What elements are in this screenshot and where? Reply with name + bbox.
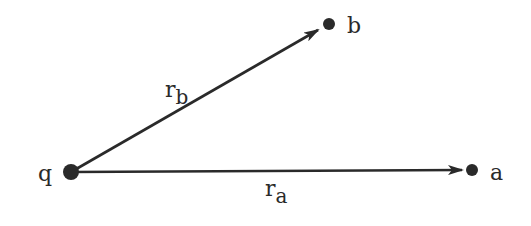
label-r-a: ra	[265, 176, 288, 208]
label-r-a-main: r	[265, 176, 276, 201]
label-r-b-subscript: b	[176, 85, 189, 109]
label-r-b-main: r	[165, 77, 176, 102]
label-r-b: rb	[165, 77, 188, 109]
point-a	[466, 164, 478, 176]
label-q: q	[38, 161, 52, 186]
charge-vector-diagram: q b a rb ra	[0, 0, 531, 226]
vector-r-b	[71, 30, 318, 172]
point-q	[63, 164, 79, 180]
point-b	[323, 18, 335, 30]
vector-r-a	[71, 170, 462, 172]
label-r-a-subscript: a	[276, 184, 288, 208]
label-a: a	[490, 160, 503, 185]
label-b: b	[347, 13, 361, 38]
